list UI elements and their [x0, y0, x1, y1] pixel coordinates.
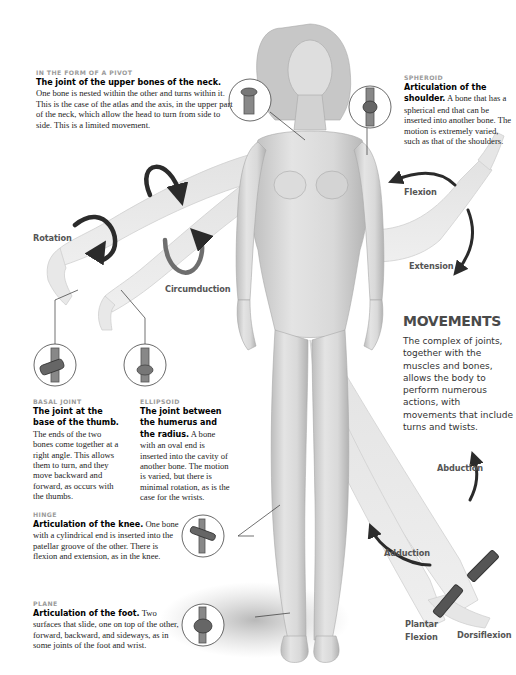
- label-circumduction: Circumduction: [165, 284, 230, 294]
- ghost-arm-right: [370, 132, 504, 262]
- joint-kicker: SPHEROID: [404, 74, 516, 82]
- ellipsoid-joint-icon: [124, 344, 166, 386]
- label-adduction: Adduction: [384, 548, 430, 558]
- label-extension: Extension: [409, 261, 453, 271]
- joint-pivot-block: IN THE FORM OF A PIVOT The joint of the …: [36, 69, 236, 130]
- joint-heading: The joint at the base of the thumb.: [33, 407, 119, 427]
- extension-arrow: [458, 210, 473, 270]
- label-abduction: Abduction: [437, 463, 483, 473]
- joint-kicker: ELLIPSOID: [140, 398, 230, 406]
- joint-kicker: IN THE FORM OF A PIVOT: [36, 69, 236, 77]
- joint-heading: Articulation of the knee.: [33, 520, 143, 529]
- joint-kicker: BASAL JOINT: [33, 398, 123, 406]
- joint-kicker: PLANE: [33, 600, 181, 608]
- joint-heading: The joint of the upper bones of the neck…: [36, 78, 221, 87]
- spheroid-joint-icon: [349, 86, 391, 128]
- joint-body: A bone with an oval end is inserted into…: [140, 429, 230, 502]
- saddle-joint-icon: [34, 344, 76, 386]
- joint-plane-block: PLANE Articulation of the foot. Two surf…: [33, 600, 181, 651]
- joint-basal-block: BASAL JOINT The joint at the base of the…: [33, 398, 123, 502]
- label-flexion: Flexion: [404, 187, 437, 197]
- hinge-joint-icon: [182, 515, 224, 557]
- joint-kicker: HINGE: [33, 511, 181, 519]
- joint-body: The ends of the two bones come together …: [33, 429, 118, 501]
- plane-joint-icon: [182, 604, 224, 646]
- movements-intro: The complex of joints, together with the…: [403, 335, 515, 433]
- joint-body: One bone is nested within the other and …: [36, 88, 233, 129]
- movements-title: MOVEMENTS: [403, 313, 501, 329]
- flexion-arrow: [395, 173, 455, 185]
- joint-ellipsoid-block: ELLIPSOID The joint between the humerus …: [140, 398, 230, 503]
- joint-spheroid-block: SPHEROID Articulation of the shoulder. A…: [404, 74, 516, 146]
- label-plantar-flexion: Plantar Flexion: [405, 618, 438, 644]
- joint-hinge-block: HINGE Articulation of the knee. One bone…: [33, 511, 181, 562]
- label-rotation: Rotation: [33, 233, 72, 243]
- joint-heading: Articulation of the foot.: [33, 609, 140, 618]
- label-dorsiflexion: Dorsiflexion: [457, 630, 511, 640]
